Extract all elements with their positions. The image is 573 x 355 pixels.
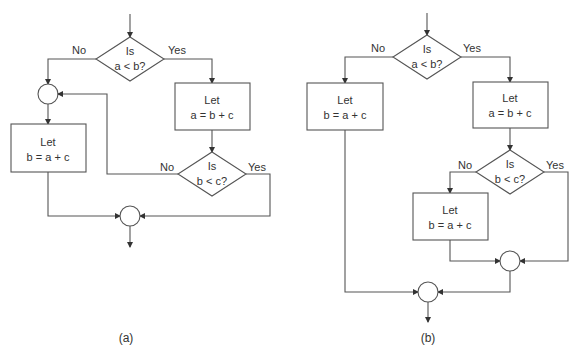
no-branch-line	[450, 172, 476, 193]
connector-circle	[120, 206, 140, 226]
process-text-line1: Let	[337, 94, 352, 106]
process-text-line1: Let	[502, 92, 517, 104]
decision-text-line2: b < c?	[197, 175, 227, 187]
process-b-equals-a-plus-c: Let b = a + c	[307, 83, 383, 130]
process-text-line2: b = a + c	[324, 109, 367, 121]
flow-line	[450, 240, 500, 261]
caption-b: (b)	[421, 331, 436, 345]
no-label: No	[371, 42, 385, 54]
yes-branch-line	[461, 57, 510, 82]
connector-circle	[500, 251, 520, 271]
no-label: No	[72, 44, 86, 56]
flow-line	[48, 172, 120, 216]
process-b-equals-a-plus-c: Let b = a + c	[11, 124, 86, 172]
decision-a-less-b: Is a < b?	[393, 35, 461, 79]
yes-branch-line	[164, 59, 212, 83]
process-a-equals-b-plus-c: Let a = b + c	[473, 82, 548, 128]
decision-text-line1: Is	[506, 158, 515, 170]
process-text-line1: Let	[204, 94, 219, 106]
no-branch-line	[48, 59, 96, 84]
connector-circle	[38, 84, 58, 104]
connector-circle	[418, 282, 438, 302]
flowchart-canvas: Is a < b? No Yes Let b = a + c Let a = b…	[0, 0, 573, 355]
process-text-line2: a = b + c	[489, 107, 532, 119]
decision-a-less-b-a: Is a < b?	[96, 37, 164, 81]
process-text-line2: b = a + c	[27, 151, 70, 163]
no-label: No	[458, 159, 472, 171]
process-text-line1: Let	[442, 204, 457, 216]
yes-label: Yes	[168, 44, 186, 56]
yes-label: Yes	[463, 42, 481, 54]
flowchart-a: Is a < b? No Yes Let b = a + c Let a = b…	[11, 14, 270, 345]
yes-label: Yes	[248, 161, 266, 173]
process-text-line2: b = a + c	[429, 219, 472, 231]
decision-text-line2: b < c?	[495, 173, 525, 185]
decision-b-less-c: Is b < c?	[178, 152, 246, 196]
flow-line	[438, 271, 510, 292]
decision-text-line1: Is	[423, 43, 432, 55]
no-label: No	[160, 161, 174, 173]
decision-text-line2: a < b?	[412, 58, 443, 70]
flow-line	[345, 130, 418, 292]
process-inner-b-equals-a-plus-c: Let b = a + c	[413, 193, 488, 240]
flowchart-b: Is a < b? No Yes Let b = a + c Let a = b…	[307, 13, 568, 345]
process-text-line2: a = b + c	[191, 109, 234, 121]
decision-text-line1: Is	[208, 160, 217, 172]
decision-b-less-c: Is b < c?	[476, 150, 544, 194]
process-text-line1: Let	[40, 136, 55, 148]
process-a-equals-b-plus-c: Let a = b + c	[175, 83, 250, 130]
yes-label: Yes	[546, 159, 564, 171]
decision-text-line2: a < b?	[115, 60, 146, 72]
no-branch-line	[345, 57, 393, 83]
caption-a: (a)	[119, 331, 134, 345]
decision-text-line1: Is	[126, 45, 135, 57]
yes-branch-line	[520, 172, 568, 261]
